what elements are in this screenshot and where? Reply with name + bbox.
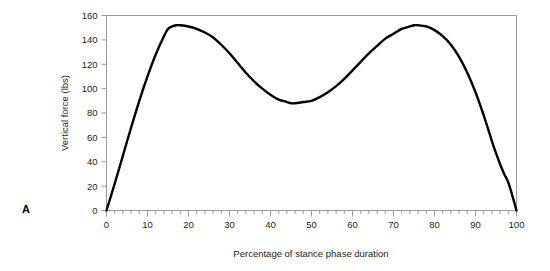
y-tick-label: 40 bbox=[87, 156, 98, 167]
vertical-force-chart: 020406080100120140160 010203040506070809… bbox=[0, 0, 550, 271]
x-tick-label: 40 bbox=[265, 219, 276, 230]
y-tick-label: 80 bbox=[87, 107, 98, 118]
y-tick-label: 20 bbox=[87, 181, 98, 192]
x-tick-label: 50 bbox=[306, 219, 317, 230]
y-tick-label: 120 bbox=[82, 59, 98, 70]
x-axis-title: Percentage of stance phase duration bbox=[233, 248, 388, 259]
plot-frame bbox=[107, 16, 517, 211]
x-tick-label: 20 bbox=[183, 219, 194, 230]
force-curve-line bbox=[107, 25, 517, 210]
y-axis-ticks bbox=[102, 16, 107, 211]
y-tick-label: 100 bbox=[82, 83, 98, 94]
series-line-0 bbox=[107, 25, 517, 210]
x-axis-tick-labels: 0102030405060708090100 bbox=[104, 219, 525, 230]
y-axis-title: Vertical force (lbs) bbox=[59, 75, 70, 151]
x-tick-label: 60 bbox=[347, 219, 358, 230]
x-tick-label: 70 bbox=[388, 219, 399, 230]
figure-root: A 020406080100120140160 0102030405060708… bbox=[0, 0, 550, 271]
y-tick-label: 140 bbox=[82, 34, 98, 45]
x-tick-label: 30 bbox=[224, 219, 235, 230]
y-tick-label: 160 bbox=[82, 10, 98, 21]
x-tick-label: 100 bbox=[509, 219, 525, 230]
x-tick-label: 80 bbox=[429, 219, 440, 230]
x-tick-label: 10 bbox=[142, 219, 153, 230]
y-tick-label: 60 bbox=[87, 132, 98, 143]
y-axis-tick-labels: 020406080100120140160 bbox=[82, 10, 98, 216]
x-axis-ticks bbox=[107, 211, 517, 217]
x-tick-label: 0 bbox=[104, 219, 109, 230]
x-tick-label: 90 bbox=[470, 219, 481, 230]
y-tick-label: 0 bbox=[92, 205, 97, 216]
